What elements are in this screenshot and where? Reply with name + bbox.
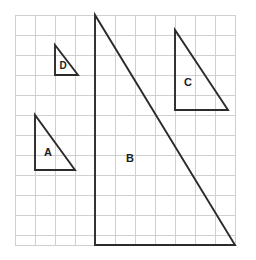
figure-canvas: ABCD [0,0,256,260]
triangle-label-a: A [44,146,52,158]
triangle-label-d: D [59,60,66,71]
triangle-label-b: B [126,152,134,164]
triangle-label-c: C [184,76,192,88]
triangles-grid-figure: ABCD [0,0,256,260]
